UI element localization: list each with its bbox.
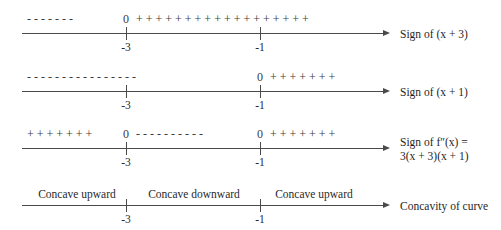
row-label-3: Sign of f″(x) = 3(x + 3)(x + 1) [400,135,469,163]
sign-zero-at-neg1: 0 [257,128,263,140]
sign-strip-positive: + + + + + + + [270,71,335,83]
tick-label-neg3: -3 [106,213,146,225]
axis-arrowhead-icon [383,145,390,151]
number-line-axis [22,33,387,34]
sign-zero-at-neg3: 0 [123,128,129,140]
tick-label-neg3: -3 [106,99,146,111]
tick-mark-neg3 [126,85,127,98]
row-label-3-line1: Sign of f″(x) = [400,136,468,148]
sign-chart-figure: -3 -1 - - - - - - - 0 + + + + + + + + + … [0,0,501,230]
interval-label-middle: Concave downward [134,188,254,201]
interval-label-right: Concave upward [268,188,360,201]
row-label-2-line1: Sign of (x + 1) [400,86,468,98]
tick-mark-neg3 [126,199,127,212]
tick-label-neg1: -1 [240,99,280,111]
tick-label-neg1: -1 [240,213,280,225]
sign-strip-negative-middle: - - - - - - - - - - [136,128,203,140]
tick-mark-neg3 [126,142,127,155]
axis-arrowhead-icon [383,88,390,94]
row-label-1-line1: Sign of (x + 3) [400,28,468,40]
row-label-3-line2: 3(x + 3)(x + 1) [400,149,469,163]
row-label-1: Sign of (x + 3) [400,27,468,41]
number-line-axis [22,91,387,92]
tick-label-neg1: -1 [240,156,280,168]
axis-arrowhead-icon [383,202,390,208]
sign-zero-at-neg3: 0 [123,13,129,25]
sign-strip-positive: + + + + + + + + + + + + + + + + + + [136,13,309,25]
number-line-axis [22,148,387,149]
row-label-2: Sign of (x + 1) [400,85,468,99]
number-line-axis [22,205,387,206]
sign-strip-negative: - - - - - - - - - - - - - - - - [27,71,136,83]
sign-strip-negative: - - - - - - - [27,13,73,25]
row-label-4: Concavity of curve [400,199,488,213]
tick-mark-neg1 [260,85,261,98]
tick-label-neg1: -1 [240,41,280,53]
sign-strip-positive-right: + + + + + + + [270,128,335,140]
tick-mark-neg1 [260,27,261,40]
row-label-4-line1: Concavity of curve [400,200,488,212]
tick-mark-neg1 [260,199,261,212]
interval-label-left: Concave upward [31,188,123,201]
tick-label-neg3: -3 [106,156,146,168]
sign-strip-positive-left: + + + + + + + [27,128,92,140]
sign-zero-at-neg1: 0 [257,71,263,83]
tick-label-neg3: -3 [106,41,146,53]
axis-arrowhead-icon [383,30,390,36]
tick-mark-neg1 [260,142,261,155]
tick-mark-neg3 [126,27,127,40]
